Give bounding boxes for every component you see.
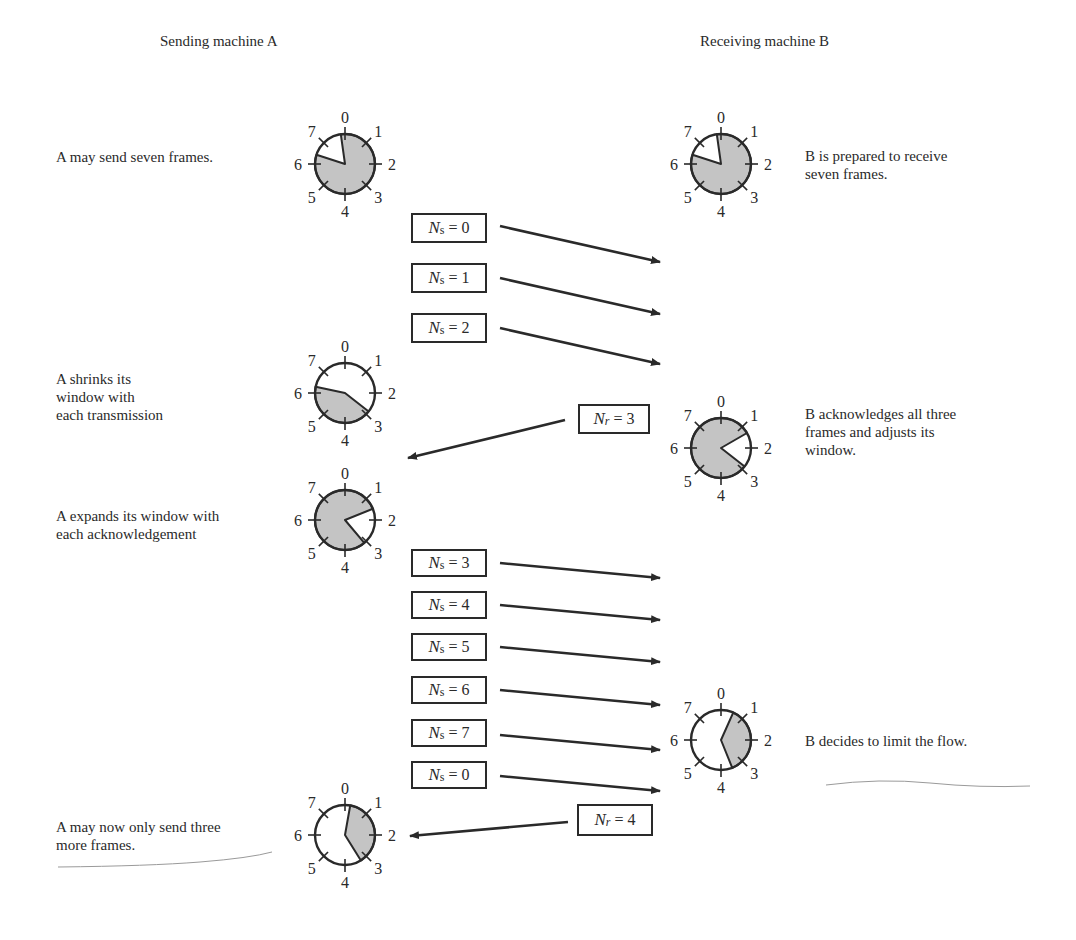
sequence-number-label: 0	[717, 109, 725, 126]
sequence-number-label: 5	[308, 189, 316, 206]
sequence-number-label: 2	[764, 440, 772, 457]
note-line: B acknowledges all three	[805, 405, 956, 423]
sequence-number-label: 0	[717, 393, 725, 410]
sequence-number-label: 6	[294, 827, 302, 844]
clock-a-final: 01234567	[294, 780, 396, 891]
sequence-number-label: 1	[374, 352, 382, 369]
sequence-number-label: 6	[294, 385, 302, 402]
subscript: s	[440, 642, 445, 657]
equals-sign: =	[448, 269, 457, 287]
symbol: N	[428, 723, 439, 743]
note-line: seven frames.	[805, 165, 947, 183]
window-clocks: 0123456701234567012345670123456701234567…	[294, 109, 772, 891]
clock-a-initial: 01234567	[294, 109, 396, 220]
frame-arrow	[500, 776, 660, 791]
equals-sign: =	[448, 554, 457, 572]
sequence-value: 2	[462, 319, 470, 337]
sequence-number-label: 6	[294, 512, 302, 529]
sequence-value: 0	[462, 766, 470, 784]
sequence-number-label: 4	[341, 559, 349, 576]
note-line: each acknowledgement	[56, 525, 219, 543]
sender-heading: Sending machine A	[160, 33, 277, 50]
sequence-value: 3	[462, 554, 470, 572]
sequence-number-label: 3	[374, 418, 382, 435]
sequence-number-label: 0	[341, 109, 349, 126]
sequence-number-label: 5	[308, 418, 316, 435]
sequence-value: 4	[628, 811, 636, 829]
frame-arrow	[500, 690, 660, 705]
sequence-number-label: 4	[341, 203, 349, 220]
note-a-final: A may now only send three more frames.	[56, 818, 221, 854]
sequence-number-label: 1	[750, 699, 758, 716]
sequence-number-label: 6	[670, 732, 678, 749]
sequence-number-label: 2	[388, 385, 396, 402]
sequence-number-label: 7	[308, 794, 316, 811]
subscript: s	[440, 558, 445, 573]
frame-arrow	[500, 328, 660, 364]
clock-b-initial: 01234567	[670, 109, 772, 220]
subscript: s	[440, 323, 445, 338]
equals-sign: =	[448, 766, 457, 784]
note-a-initial: A may send seven frames.	[56, 148, 213, 166]
subscript: s	[440, 600, 445, 615]
frame-label-box: Ns=2	[411, 313, 487, 343]
frame-arrow	[500, 278, 660, 314]
sequence-number-label: 7	[308, 123, 316, 140]
note-line: window.	[805, 441, 956, 459]
ack-label-box: Nr=4	[577, 804, 653, 836]
frame-label-box: Ns=4	[411, 591, 487, 619]
sequence-number-label: 7	[684, 407, 692, 424]
subscript: s	[440, 728, 445, 743]
subscript: r	[605, 414, 610, 429]
subscript: s	[440, 273, 445, 288]
sequence-number-label: 5	[684, 473, 692, 490]
frame-arrow	[500, 735, 660, 750]
frame-label-box: Ns=1	[411, 263, 487, 293]
sequence-number-label: 4	[717, 203, 725, 220]
sequence-number-label: 0	[341, 780, 349, 797]
note-line: A shrinks its	[56, 370, 163, 388]
note-line: frames and adjusts its	[805, 423, 956, 441]
note-b-initial: B is prepared to receive seven frames.	[805, 147, 947, 183]
note-line: more frames.	[56, 836, 221, 854]
sequence-value: 0	[462, 219, 470, 237]
symbol: N	[428, 218, 439, 238]
sequence-number-label: 5	[308, 860, 316, 877]
sequence-number-label: 7	[308, 479, 316, 496]
sequence-number-label: 6	[294, 156, 302, 173]
symbol: N	[593, 409, 604, 429]
equals-sign: =	[448, 681, 457, 699]
symbol: N	[428, 765, 439, 785]
sequence-value: 1	[462, 269, 470, 287]
receiver-heading: Receiving machine B	[700, 33, 829, 50]
sequence-number-label: 3	[750, 189, 758, 206]
sequence-number-label: 4	[717, 779, 725, 796]
ack-label-box: Nr=3	[578, 404, 650, 434]
sequence-number-label: 1	[374, 794, 382, 811]
clock-a-shrink: 01234567	[294, 338, 396, 449]
clock-a-expand: 01234567	[294, 465, 396, 576]
note-line: each transmission	[56, 406, 163, 424]
equals-sign: =	[613, 410, 622, 428]
equals-sign: =	[448, 219, 457, 237]
sequence-value: 5	[462, 638, 470, 656]
clock-b-ack: 01234567	[670, 393, 772, 504]
sequence-value: 7	[462, 724, 470, 742]
sequence-number-label: 4	[717, 487, 725, 504]
sequence-number-label: 7	[684, 123, 692, 140]
subscript: s	[440, 685, 445, 700]
equals-sign: =	[448, 596, 457, 614]
symbol: N	[428, 595, 439, 615]
sequence-number-label: 3	[374, 860, 382, 877]
sequence-number-label: 1	[374, 479, 382, 496]
sequence-number-label: 3	[750, 473, 758, 490]
equals-sign: =	[448, 724, 457, 742]
symbol: N	[428, 318, 439, 338]
note-b-limit: B decides to limit the flow.	[805, 732, 967, 750]
sequence-number-label: 6	[670, 440, 678, 457]
frame-label-box: Ns=6	[411, 676, 487, 704]
ack-arrow	[408, 420, 565, 458]
sequence-number-label: 7	[684, 699, 692, 716]
subscript: s	[440, 770, 445, 785]
ack-arrow	[410, 822, 568, 836]
